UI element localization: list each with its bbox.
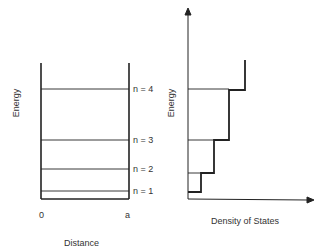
level-label-n2: n = 2 <box>133 164 153 174</box>
x-tick-0: 0 <box>39 210 44 220</box>
level-label-n4: n = 4 <box>133 84 153 94</box>
right-x-axis-label: Density of States <box>211 216 279 226</box>
level-label-n1: n = 1 <box>133 186 153 196</box>
right-y-axis-label: Energy <box>166 89 176 118</box>
dos-level-lines <box>188 89 229 173</box>
left-x-axis-label: Distance <box>64 238 99 248</box>
potential-well <box>41 63 129 199</box>
level-label-n3: n = 3 <box>133 135 153 145</box>
left-y-axis-label: Energy <box>11 89 21 118</box>
diagram-canvas <box>0 0 326 249</box>
x-tick-a: a <box>125 210 130 220</box>
dos-staircase <box>188 60 245 192</box>
